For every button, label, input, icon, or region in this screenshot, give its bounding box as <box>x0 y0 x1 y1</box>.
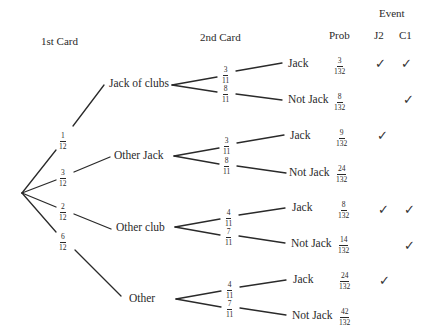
leaf-prob: 24132 <box>336 165 347 183</box>
node-other-jack: Other Jack <box>114 150 164 162</box>
prob-other-jack: 312 <box>59 169 67 187</box>
branch-root-other-club <box>22 193 56 207</box>
branch-prob: 711 <box>225 228 232 246</box>
leaf-prob: 24132 <box>339 272 350 290</box>
header-second-card: 2nd Card <box>200 32 241 43</box>
branch-prob: 411 <box>226 281 233 299</box>
header-first-card: 1st Card <box>41 36 78 47</box>
leaf-label: Jack <box>288 58 308 70</box>
check-icon-c1: ✓ <box>401 57 412 70</box>
header-event: Event <box>379 8 405 19</box>
header-prob: Prob <box>329 30 350 41</box>
check-icon-j2: ✓ <box>375 57 386 70</box>
leaf-label: Jack <box>292 202 312 214</box>
leaf-prob: 8132 <box>338 201 349 219</box>
leaf-label: Not Jack <box>289 167 330 179</box>
check-icon-j2: ✓ <box>379 274 390 287</box>
branch-root-other <box>22 193 56 232</box>
branch-prob: 411 <box>225 209 232 227</box>
prob-other: 612 <box>59 233 67 251</box>
leaf-prob: 3132 <box>334 57 345 75</box>
branch-prob: 711 <box>226 300 233 318</box>
check-icon-j2: ✓ <box>377 129 388 142</box>
prob-jack-of-clubs: 112 <box>59 132 67 150</box>
node-jack-of-clubs: Jack of clubs <box>109 78 169 90</box>
leaf-prob: 42132 <box>339 308 350 326</box>
prob-other-club: 212 <box>59 203 67 221</box>
node-other-club: Other club <box>116 222 165 234</box>
leaf-label: Not Jack <box>292 310 333 322</box>
leaf-label: Not Jack <box>291 238 332 250</box>
branch-prob: 311 <box>223 137 230 155</box>
branch-prob: 311 <box>222 66 229 84</box>
leaf-label: Jack <box>290 130 310 142</box>
leaf-prob: 14132 <box>338 236 349 254</box>
check-icon-c1: ✓ <box>403 93 414 106</box>
node-other: Other <box>129 293 155 305</box>
check-icon-c1: ✓ <box>404 239 415 252</box>
leaf-prob: 9132 <box>336 129 347 147</box>
branch-prob: 811 <box>222 85 229 103</box>
header-c1: C1 <box>399 30 412 41</box>
leaf-label: Jack <box>293 274 313 286</box>
leaf-label: Not Jack <box>288 94 329 106</box>
branch-prob: 811 <box>223 157 230 175</box>
header-j2: J2 <box>374 30 384 41</box>
check-icon-c1: ✓ <box>404 203 415 216</box>
check-icon-j2: ✓ <box>378 203 389 216</box>
leaf-prob: 8132 <box>334 93 345 111</box>
